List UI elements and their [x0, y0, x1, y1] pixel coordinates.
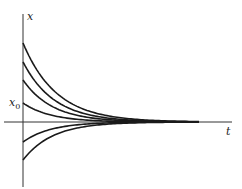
solution-curves-plot: x t x0: [0, 0, 242, 189]
solution-curves: [23, 43, 199, 160]
curve-5: [23, 122, 199, 142]
curve-6: [23, 122, 199, 160]
x0-label: x0: [9, 96, 20, 111]
curve-1: [23, 43, 199, 122]
t-axis-label: t: [226, 125, 231, 138]
x-axis-label: x: [27, 10, 34, 23]
curve-2: [23, 62, 199, 122]
